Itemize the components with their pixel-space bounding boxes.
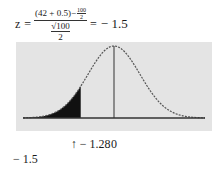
equals-sign: = bbox=[24, 17, 31, 32]
normal-curve-plot bbox=[16, 42, 212, 131]
z-score-equation: z = (42 + 0.5)− 100 2 √100 2 = − 1.5 bbox=[15, 8, 128, 40]
denominator-bottom: 2 bbox=[58, 32, 63, 42]
equals-sign-2: = bbox=[90, 17, 97, 32]
equation-result: − 1.5 bbox=[101, 16, 128, 32]
fraction-denominator: √100 2 bbox=[51, 21, 69, 42]
fraction-numerator: (42 + 0.5)− 100 2 bbox=[34, 7, 87, 21]
equation-fraction: (42 + 0.5)− 100 2 √100 2 bbox=[34, 7, 87, 42]
tick-label-critical: ↑ − 1.28 bbox=[71, 137, 111, 152]
numerator-subfraction: 100 2 bbox=[77, 7, 86, 20]
subfraction-bottom: 2 bbox=[80, 14, 83, 20]
normal-curve-svg bbox=[16, 42, 212, 131]
equation-lhs: z bbox=[15, 17, 20, 32]
numerator-main: (42 + 0.5)− bbox=[35, 8, 76, 19]
annotation-z-value: − 1.5 bbox=[13, 152, 38, 167]
denominator-sqrt: √100 bbox=[51, 21, 69, 32]
subfraction-top: 100 bbox=[77, 7, 86, 14]
tick-label-zero: 0 bbox=[111, 137, 117, 152]
